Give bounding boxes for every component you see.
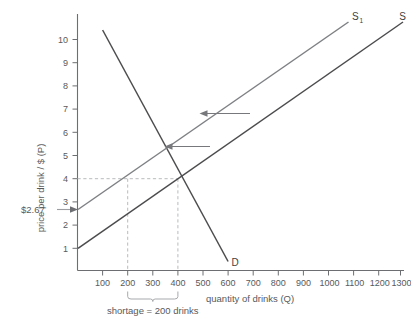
x-ticklabel-400: 400 [170,278,185,288]
x-ticklabel-1300: 1300 [391,278,411,288]
supply-curve [78,22,403,248]
x-ticklabel-200: 200 [120,278,135,288]
y-ticklabel-6: 6 [63,128,68,138]
x-ticklabel-500: 500 [195,278,210,288]
price-annotation-arrow-head [70,206,78,213]
supply-shifted-curve-label: S 1 [352,11,364,24]
x-ticklabel-1200: 1200 [370,278,390,288]
y-axis-title: price per drink / $ (P) [35,144,46,233]
shift-arrow-upper [200,110,251,117]
y-ticklabel-8: 8 [63,81,68,91]
x-ticklabel-700: 700 [246,278,261,288]
demand-curve-label: D [232,257,239,268]
supply-demand-chart: 1 2 3 4 5 6 7 8 9 10 100 2 [0,0,411,322]
x-axis-title: quantity of drinks (Q) [206,293,294,304]
guide-lines-group [78,179,178,271]
shift-arrow-upper-head [200,110,208,117]
y-ticklabel-5: 5 [63,151,68,161]
x-ticklabel-1000: 1000 [319,278,339,288]
chart-svg: 1 2 3 4 5 6 7 8 9 10 100 2 [0,0,411,322]
y-ticklabel-7: 7 [63,104,68,114]
x-ticklabel-800: 800 [271,278,286,288]
y-ticklabel-9: 9 [63,58,68,68]
x-ticklabel-300: 300 [145,278,160,288]
shortage-bracket-group: shortage = 200 drinks [107,292,199,317]
curves-group [78,22,403,262]
shortage-annotation-label: shortage = 200 drinks [107,305,199,316]
supply-shifted-label-subscript: 1 [360,17,364,24]
y-ticklabel-3: 3 [63,197,68,207]
supply-shifted-label-base: S [352,11,359,22]
curve-labels-group: D S S 1 [232,11,407,268]
x-ticklabel-1100: 1100 [345,278,364,288]
y-ticklabel-10: 10 [58,35,68,45]
x-ticklabel-100: 100 [95,278,110,288]
x-axis-ticks: 100 200 300 400 500 600 700 800 900 1000… [95,271,411,289]
y-ticklabel-4: 4 [63,174,68,184]
x-ticklabel-600: 600 [221,278,236,288]
y-ticklabel-2: 2 [63,220,68,230]
x-ticklabel-900: 900 [296,278,311,288]
shortage-bracket [128,292,178,302]
y-axis-ticks: 1 2 3 4 5 6 7 8 9 10 [58,35,78,254]
axes-group [78,14,405,271]
supply-curve-label: S [399,11,406,22]
shift-arrow-lower [165,143,211,150]
shift-arrows-group [165,110,251,150]
demand-curve [103,30,229,262]
price-annotation-group: $2.67 [21,204,78,215]
y-ticklabel-1: 1 [63,244,68,254]
supply-curve-shifted [78,22,349,210]
